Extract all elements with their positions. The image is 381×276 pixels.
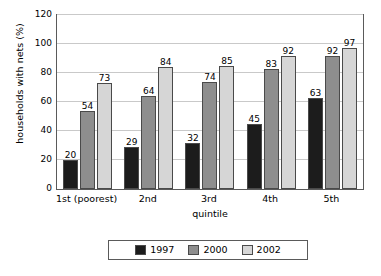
legend-label: 2002 bbox=[257, 245, 281, 255]
bar: 29 bbox=[124, 147, 139, 189]
bar: 74 bbox=[202, 82, 217, 189]
chart-legend: 199720002002 bbox=[108, 240, 308, 260]
x-tick-label: 1st (poorest) bbox=[56, 193, 117, 204]
legend-swatch bbox=[135, 245, 146, 255]
y-tick-label: 40 bbox=[28, 126, 52, 135]
y-axis-tick-labels: 020406080100120 bbox=[24, 14, 52, 190]
bar-value-label: 20 bbox=[65, 151, 76, 160]
x-tick-label: 3rd bbox=[178, 193, 239, 204]
bar-group: 458392 bbox=[241, 15, 302, 189]
bar: 64 bbox=[141, 96, 156, 189]
bar: 85 bbox=[219, 66, 234, 189]
bar: 20 bbox=[63, 160, 78, 189]
y-tick-label: 0 bbox=[28, 184, 52, 193]
legend-swatch bbox=[188, 245, 199, 255]
bar-value-label: 74 bbox=[204, 73, 215, 82]
bar: 97 bbox=[342, 48, 357, 189]
y-axis-title: households with nets (%) bbox=[14, 0, 25, 169]
bar-value-label: 63 bbox=[310, 89, 321, 98]
plot-area: 205473296484327485458392639297 bbox=[57, 15, 363, 189]
x-tick-label: 4th bbox=[240, 193, 301, 204]
bar-value-label: 32 bbox=[187, 134, 198, 143]
bar-value-label: 97 bbox=[344, 39, 355, 48]
y-tick-label: 120 bbox=[28, 10, 52, 19]
bar: 73 bbox=[97, 83, 112, 189]
x-tick-label: 5th bbox=[301, 193, 362, 204]
bar: 92 bbox=[325, 56, 340, 189]
bar-value-label: 92 bbox=[282, 47, 293, 56]
legend-item: 1997 bbox=[135, 245, 174, 255]
bar: 63 bbox=[308, 98, 323, 189]
bar-group: 639297 bbox=[302, 15, 363, 189]
legend-label: 1997 bbox=[150, 245, 174, 255]
x-axis-tick-labels: 1st (poorest)2nd3rd4th5th bbox=[56, 193, 364, 207]
legend-label: 2000 bbox=[203, 245, 227, 255]
bar-value-label: 92 bbox=[327, 47, 338, 56]
plot-frame: 205473296484327485458392639297 bbox=[56, 14, 364, 190]
bar: 32 bbox=[185, 143, 200, 189]
bar: 45 bbox=[247, 124, 262, 189]
x-tick-label: 2nd bbox=[117, 193, 178, 204]
bar-value-label: 85 bbox=[221, 57, 232, 66]
bar-value-label: 83 bbox=[265, 60, 276, 69]
bar: 84 bbox=[158, 67, 173, 189]
bar-chart: households with nets (%) 020406080100120… bbox=[0, 0, 381, 276]
y-tick-label: 20 bbox=[28, 155, 52, 164]
y-tick-label: 80 bbox=[28, 68, 52, 77]
bar-group: 205473 bbox=[57, 15, 118, 189]
bar: 83 bbox=[264, 69, 279, 189]
bar-value-label: 54 bbox=[82, 102, 93, 111]
legend-item: 2002 bbox=[242, 245, 281, 255]
bar-value-label: 73 bbox=[99, 74, 110, 83]
x-axis-title: quintile bbox=[56, 208, 364, 219]
legend-swatch bbox=[242, 245, 253, 255]
bar-value-label: 29 bbox=[126, 138, 137, 147]
legend-item: 2000 bbox=[188, 245, 227, 255]
bar: 92 bbox=[281, 56, 296, 189]
bar-value-label: 64 bbox=[143, 87, 154, 96]
bar-group: 296484 bbox=[118, 15, 179, 189]
bar-group: 327485 bbox=[179, 15, 240, 189]
bar-value-label: 45 bbox=[248, 115, 259, 124]
bar-value-label: 84 bbox=[160, 58, 171, 67]
y-tick-label: 100 bbox=[28, 39, 52, 48]
bar: 54 bbox=[80, 111, 95, 189]
y-tick-label: 60 bbox=[28, 97, 52, 106]
